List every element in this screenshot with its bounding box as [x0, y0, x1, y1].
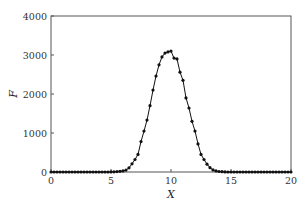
data-point-marker	[103, 170, 106, 173]
data-point-marker	[214, 169, 217, 172]
data-point-marker	[166, 50, 169, 53]
data-point-marker	[145, 119, 148, 122]
data-point-marker	[226, 170, 229, 173]
data-point-marker	[49, 170, 52, 173]
data-point-marker	[64, 170, 67, 173]
data-point-marker	[109, 170, 112, 173]
data-point-marker	[223, 170, 226, 173]
data-point-marker	[148, 104, 151, 107]
data-point-marker	[91, 170, 94, 173]
x-tick-label: 10	[165, 175, 177, 186]
data-point-marker	[163, 52, 166, 55]
chart: 01000200030004000 05101520 X F	[0, 0, 306, 209]
data-point-marker	[280, 170, 283, 173]
data-point-marker	[70, 170, 73, 173]
x-tick-label: 15	[225, 175, 237, 186]
data-point-marker	[124, 169, 127, 172]
data-point-marker	[88, 170, 91, 173]
data-point-marker	[112, 170, 115, 173]
data-point-marker	[244, 170, 247, 173]
data-point-marker	[76, 170, 79, 173]
data-point-marker	[187, 106, 190, 109]
data-point-marker	[172, 57, 175, 60]
data-point-marker	[265, 170, 268, 173]
data-point-marker	[154, 75, 157, 78]
data-point-marker	[268, 170, 271, 173]
data-point-marker	[100, 170, 103, 173]
x-tick-label: 5	[108, 175, 114, 186]
data-point-marker	[169, 50, 172, 53]
data-point-marker	[286, 170, 289, 173]
data-point-marker	[82, 170, 85, 173]
data-point-marker	[79, 170, 82, 173]
data-point-marker	[157, 63, 160, 66]
data-point-marker	[289, 170, 292, 173]
plot-area-frame	[51, 16, 291, 172]
data-point-marker	[181, 79, 184, 82]
y-tick-label: 0	[41, 167, 47, 178]
data-point-marker	[211, 168, 214, 171]
data-point-marker	[283, 170, 286, 173]
x-tick-label: 20	[285, 175, 297, 186]
data-point-marker	[118, 170, 121, 173]
data-point-marker	[73, 170, 76, 173]
data-point-marker	[193, 130, 196, 133]
data-point-marker	[262, 170, 265, 173]
data-point-marker	[217, 170, 220, 173]
data-point-marker	[259, 170, 262, 173]
data-point-marker	[136, 153, 139, 156]
data-point-marker	[220, 170, 223, 173]
data-point-marker	[61, 170, 64, 173]
data-point-marker	[247, 170, 250, 173]
data-point-marker	[241, 170, 244, 173]
data-point-marker	[184, 96, 187, 99]
data-point-marker	[94, 170, 97, 173]
x-axis-label: X	[166, 188, 176, 201]
data-point-marker	[277, 170, 280, 173]
data-point-marker	[106, 170, 109, 173]
data-point-marker	[232, 170, 235, 173]
data-series	[49, 50, 292, 174]
data-point-marker	[115, 170, 118, 173]
data-point-marker	[271, 170, 274, 173]
data-point-marker	[121, 169, 124, 172]
data-point-marker	[130, 162, 133, 165]
data-point-marker	[235, 170, 238, 173]
y-tick-label: 4000	[23, 11, 47, 22]
y-tick-label: 1000	[23, 128, 47, 139]
data-point-marker	[58, 170, 61, 173]
data-point-marker	[199, 153, 202, 156]
y-axis-label: F	[7, 90, 20, 99]
data-point-marker	[175, 57, 178, 60]
data-point-marker	[205, 163, 208, 166]
data-point-marker	[274, 170, 277, 173]
data-point-marker	[52, 170, 55, 173]
data-point-marker	[127, 166, 130, 169]
data-point-marker	[229, 170, 232, 173]
data-point-marker	[67, 170, 70, 173]
data-point-marker	[253, 170, 256, 173]
data-point-marker	[238, 170, 241, 173]
data-point-marker	[178, 71, 181, 74]
data-point-marker	[133, 158, 136, 161]
data-point-marker	[142, 130, 145, 133]
data-point-marker	[85, 170, 88, 173]
y-tick-label: 3000	[23, 50, 47, 61]
data-point-marker	[202, 158, 205, 161]
data-point-marker	[151, 89, 154, 92]
data-point-marker	[55, 170, 58, 173]
data-point-marker	[97, 170, 100, 173]
series-line	[51, 51, 291, 172]
data-point-marker	[196, 142, 199, 145]
data-point-marker	[208, 166, 211, 169]
data-point-marker	[256, 170, 259, 173]
data-point-marker	[250, 170, 253, 173]
data-point-marker	[190, 120, 193, 123]
data-point-marker	[139, 140, 142, 143]
y-tick-label: 2000	[23, 89, 47, 100]
x-tick-label: 0	[48, 175, 54, 186]
y-axis-ticks: 01000200030004000	[23, 11, 54, 178]
data-point-marker	[160, 55, 163, 58]
